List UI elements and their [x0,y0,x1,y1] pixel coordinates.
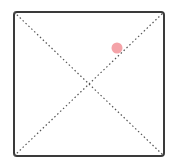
marker-dot[interactable] [112,43,123,54]
diagram-canvas [0,0,174,168]
